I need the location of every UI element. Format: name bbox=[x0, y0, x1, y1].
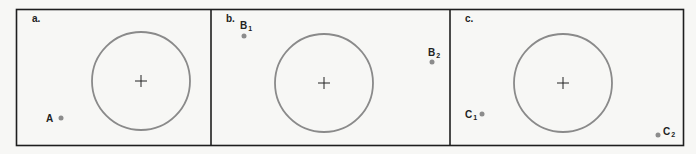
center-crosshair-icon bbox=[557, 77, 569, 89]
point-c1 bbox=[480, 112, 485, 117]
center-crosshair-icon bbox=[135, 75, 147, 87]
point-b1 bbox=[242, 34, 247, 39]
point-label-a: A bbox=[46, 113, 53, 124]
point-c2 bbox=[656, 133, 661, 138]
point-b2 bbox=[430, 60, 435, 65]
point-label-b1: B1 bbox=[240, 20, 252, 32]
point-label-b2: B2 bbox=[428, 47, 440, 59]
diagram-canvas: a. A b. B1 B2 c. C1 C2 bbox=[0, 0, 696, 154]
point-label-c2: C2 bbox=[663, 126, 675, 138]
panel-b: b. B1 B2 bbox=[226, 13, 440, 132]
panel-label: c. bbox=[465, 13, 474, 24]
point-a bbox=[59, 116, 64, 121]
center-crosshair-icon bbox=[318, 77, 330, 89]
panel-label: a. bbox=[32, 13, 41, 24]
panel-label: b. bbox=[226, 13, 235, 24]
panel-c: c. C1 C2 bbox=[465, 13, 675, 138]
panel-a: a. A bbox=[32, 13, 190, 130]
point-label-c1: C1 bbox=[465, 109, 477, 121]
